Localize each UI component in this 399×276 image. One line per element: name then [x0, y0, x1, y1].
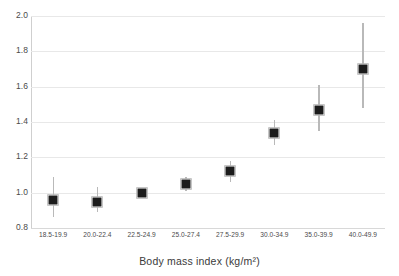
plot-area [31, 16, 385, 228]
x-axis-tick-labels: 18.5-19.920.0-22.422.5-24.925.0-27.427.5… [31, 231, 385, 243]
data-point-marker [357, 64, 368, 75]
data-point-marker [313, 104, 324, 115]
x-axis-tick-label: 30.0-34.9 [260, 231, 288, 239]
gridline [31, 228, 385, 229]
x-axis-tick-label: 20.0-22.4 [83, 231, 111, 239]
y-axis-tick-label: 1.6 [2, 82, 28, 91]
chart-container: 0.81.01.21.41.61.82.0 18.5-19.920.0-22.4… [0, 0, 399, 276]
x-axis-tick-label: 27.5-29.9 [216, 231, 244, 239]
y-axis-tick-label: 1.8 [2, 46, 28, 55]
data-point-marker [269, 127, 280, 138]
y-axis-tick-label: 0.8 [2, 223, 28, 232]
x-axis-title: Body mass index (kg/m²) [0, 255, 399, 267]
data-point-marker [225, 166, 236, 177]
gridline [31, 87, 385, 88]
data-point-marker [136, 187, 147, 198]
gridline [31, 16, 385, 17]
x-axis-tick-label: 35.0-39.9 [304, 231, 332, 239]
x-axis-tick-label: 25.0-27.4 [172, 231, 200, 239]
x-axis-tick-label: 18.5-19.9 [39, 231, 67, 239]
gridline [31, 51, 385, 52]
data-point-marker [48, 194, 59, 205]
y-axis-tick-label: 1.2 [2, 152, 28, 161]
x-axis-tick-label: 40.0-49.9 [349, 231, 377, 239]
gridline [31, 157, 385, 158]
gridline [31, 193, 385, 194]
y-axis-tick-label: 1.0 [2, 188, 28, 197]
y-axis-tick-labels: 0.81.01.21.41.61.82.0 [0, 0, 28, 276]
data-point-marker [180, 178, 191, 189]
x-axis-tick-label: 22.5-24.9 [127, 231, 155, 239]
data-point-marker [92, 196, 103, 207]
y-axis-tick-label: 2.0 [2, 11, 28, 20]
gridline [31, 122, 385, 123]
y-axis-tick-label: 1.4 [2, 117, 28, 126]
